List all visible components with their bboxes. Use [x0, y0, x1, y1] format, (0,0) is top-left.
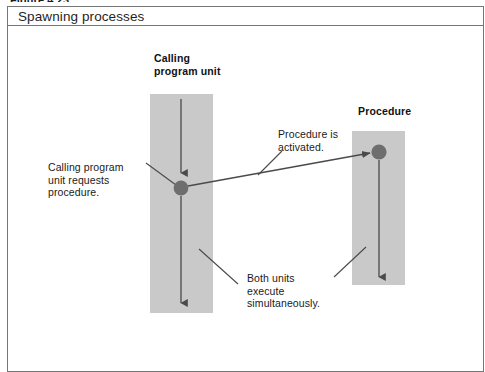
calling-program-unit-bar	[150, 94, 213, 313]
annotation-both-units-execute: Both units execute simultaneously.	[247, 272, 320, 310]
procedure-label: Procedure	[358, 105, 411, 118]
calling-program-unit-label: Calling program unit	[154, 52, 221, 77]
annotation-procedure-activated: Procedure is activated.	[278, 128, 338, 153]
leader-line-procedure-activated	[258, 151, 282, 175]
annotation-calling-request: Calling program unit requests procedure.	[48, 161, 124, 199]
spawn-connector-arrow	[188, 153, 370, 186]
procedure-bar	[352, 131, 405, 285]
